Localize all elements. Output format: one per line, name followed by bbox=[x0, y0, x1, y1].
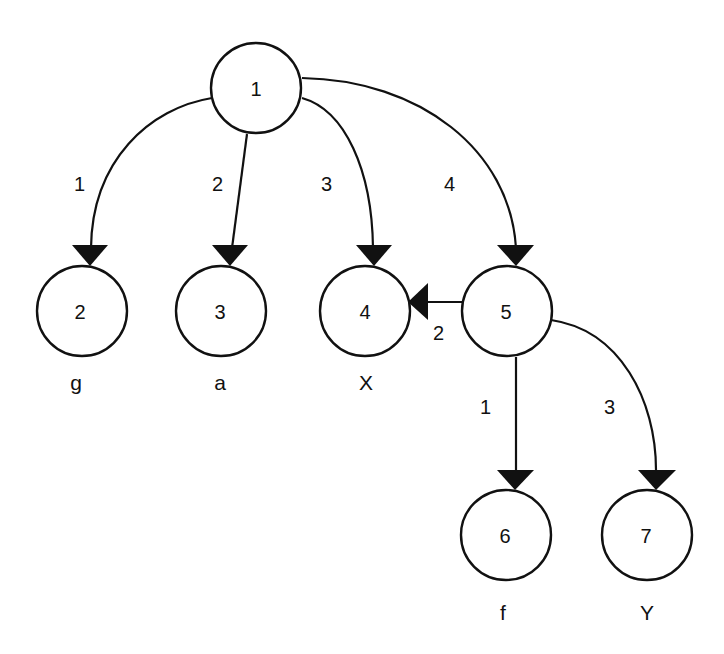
node-label-3: 3 bbox=[214, 301, 225, 323]
node-1: 1 bbox=[211, 43, 301, 133]
node-6: 6 bbox=[461, 490, 551, 580]
leaf-label-X: X bbox=[359, 371, 373, 394]
node-label-2: 2 bbox=[74, 301, 85, 323]
edge-1-3 bbox=[232, 134, 247, 248]
node-label-7: 7 bbox=[640, 525, 651, 547]
edge-1-2 bbox=[91, 98, 212, 248]
tree-diagram: 1 2 3 4 2 1 3 1 2 3 4 5 6 7 g a X f Y bbox=[0, 0, 724, 654]
node-7: 7 bbox=[602, 490, 692, 580]
leaf-label-Y: Y bbox=[640, 601, 654, 624]
node-5: 5 bbox=[462, 266, 552, 356]
arrow-head-5-7 bbox=[638, 470, 676, 490]
arrow-head-1-2 bbox=[72, 245, 108, 266]
node-2: 2 bbox=[37, 266, 127, 356]
edge-5-7 bbox=[551, 320, 656, 470]
node-label-6: 6 bbox=[499, 525, 510, 547]
edge-label-5-6: 1 bbox=[480, 396, 491, 418]
node-4: 4 bbox=[320, 266, 410, 356]
arrow-head-1-4 bbox=[356, 245, 392, 266]
node-label-4: 4 bbox=[359, 301, 370, 323]
edge-1-4 bbox=[302, 98, 373, 248]
edge-label-1-2: 1 bbox=[74, 173, 85, 195]
edge-label-1-5: 4 bbox=[444, 173, 455, 195]
arrow-head-5-6 bbox=[497, 470, 534, 490]
node-label-5: 5 bbox=[500, 301, 511, 323]
edge-label-5-4: 2 bbox=[433, 322, 444, 344]
node-3: 3 bbox=[176, 266, 266, 356]
edge-label-1-4: 3 bbox=[321, 173, 332, 195]
arrow-head-1-3 bbox=[212, 245, 248, 266]
leaf-label-a: a bbox=[214, 371, 226, 394]
arrow-head-1-5 bbox=[497, 245, 534, 266]
node-label-1: 1 bbox=[250, 78, 261, 100]
edge-1-5 bbox=[302, 78, 516, 248]
leaf-label-g: g bbox=[70, 371, 82, 394]
leaf-label-f: f bbox=[500, 601, 506, 624]
edge-label-5-7: 3 bbox=[604, 396, 615, 418]
edge-label-1-3: 2 bbox=[212, 173, 223, 195]
